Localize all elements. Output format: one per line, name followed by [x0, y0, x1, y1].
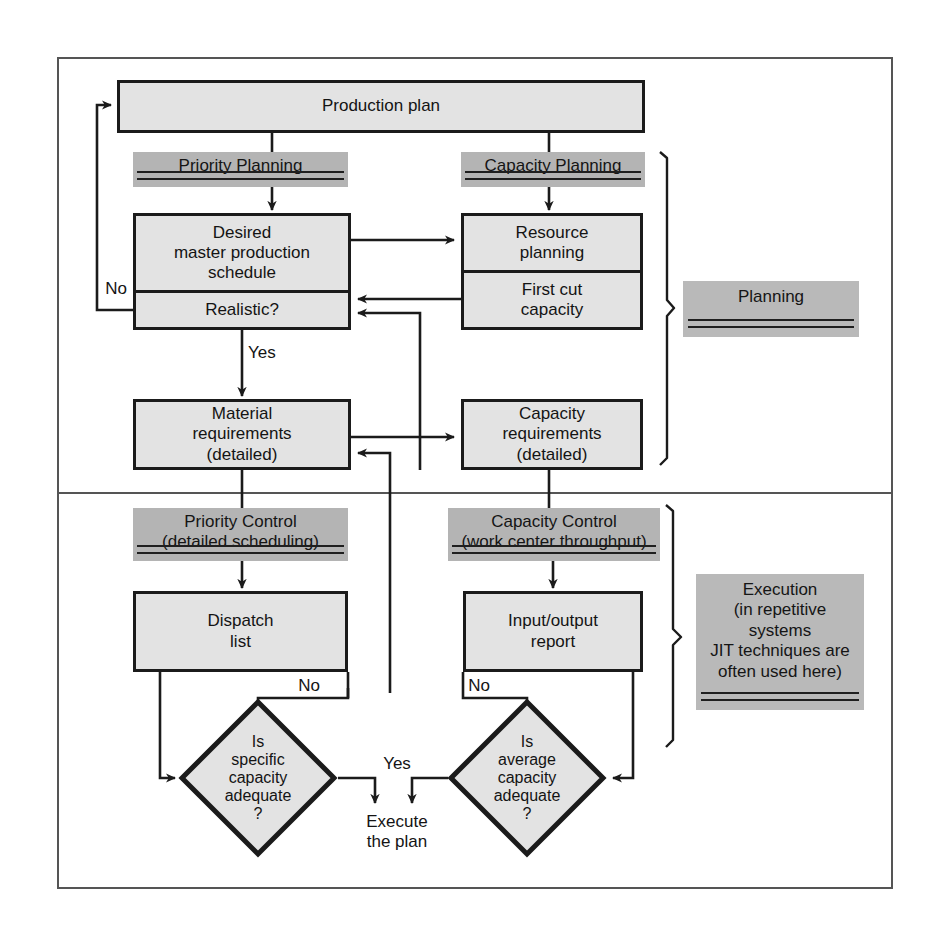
side-label-planning: Planning — [683, 281, 859, 337]
decision-average-capacity-label: Is average capacity adequate ? — [447, 698, 607, 858]
node-production-plan[interactable]: Production plan — [117, 80, 645, 133]
node-first-cut-capacity-label: First cut capacity — [464, 273, 640, 327]
side-label-planning-text: Planning — [738, 287, 804, 307]
decision-average-capacity[interactable]: Is average capacity adequate ? — [447, 698, 607, 858]
side-rule-lines — [688, 319, 854, 328]
node-dispatch-list[interactable]: Dispatch list — [133, 591, 348, 672]
band-rule-lines — [465, 171, 641, 180]
edge-label-no-dispatch: No — [292, 676, 326, 696]
node-production-plan-label: Production plan — [322, 96, 440, 116]
band-priority-planning: Priority Planning — [133, 152, 348, 187]
edge-label-yes-mps: Yes — [248, 343, 288, 363]
node-desired-mps-label: Desired master production schedule — [136, 216, 348, 293]
node-desired-mps-group[interactable]: Desired master production schedule Reali… — [133, 213, 351, 330]
node-input-output-report-label: Input/output report — [508, 611, 598, 651]
band-rule-lines — [137, 545, 344, 554]
node-capacity-requirements-label: Capacity requirements (detailed) — [502, 404, 601, 464]
band-rule-lines — [452, 545, 656, 554]
node-material-requirements-label: Material requirements (detailed) — [192, 404, 291, 464]
node-dispatch-list-label: Dispatch list — [207, 611, 273, 651]
band-priority-control: Priority Control (detailed scheduling) — [133, 508, 348, 561]
band-capacity-planning: Capacity Planning — [461, 152, 645, 187]
edge-label-no-mps: No — [99, 279, 133, 299]
flowchart-canvas: Production plan Priority Planning Capaci… — [0, 0, 934, 932]
side-label-execution-text: Execution (in repetitive systems JIT tec… — [710, 580, 850, 682]
band-rule-lines — [137, 171, 344, 180]
node-input-output-report[interactable]: Input/output report — [463, 591, 643, 672]
side-label-execution: Execution (in repetitive systems JIT tec… — [696, 574, 864, 710]
edge-label-execute-the-plan: Execute the plan — [338, 812, 456, 853]
node-realistic-label: Realistic? — [136, 293, 348, 327]
node-material-requirements[interactable]: Material requirements (detailed) — [133, 399, 351, 470]
band-capacity-control: Capacity Control (work center throughput… — [448, 508, 660, 561]
edge-label-no-input-output: No — [462, 676, 496, 696]
node-capacity-planning-group[interactable]: Resource planning First cut capacity — [461, 213, 643, 330]
node-capacity-requirements[interactable]: Capacity requirements (detailed) — [461, 399, 643, 470]
edge-label-yes-execute: Yes — [375, 754, 419, 774]
decision-specific-capacity[interactable]: Is specific capacity adequate ? — [178, 698, 338, 858]
node-resource-planning-label: Resource planning — [464, 216, 640, 273]
decision-specific-capacity-label: Is specific capacity adequate ? — [178, 698, 338, 858]
side-rule-lines — [701, 692, 859, 701]
